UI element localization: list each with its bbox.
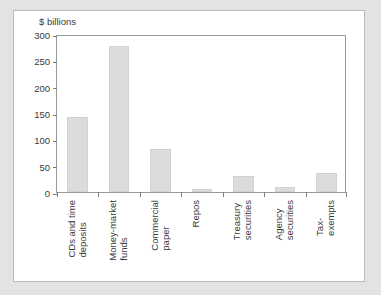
y-tick-mark [53, 141, 57, 142]
x-tick-mark [57, 192, 58, 197]
y-tick-mark [53, 115, 57, 116]
x-axis-label: CDs and time deposits [66, 200, 88, 258]
y-tick-label: 250 [34, 56, 50, 67]
x-tick-mark [181, 192, 182, 197]
y-tick-mark [53, 167, 57, 168]
plot-area: 050100150200250300 [56, 35, 346, 193]
y-tick-mark [53, 88, 57, 89]
y-tick-label: 100 [34, 135, 50, 146]
x-tick-mark [306, 192, 307, 197]
y-tick-label: 300 [34, 30, 50, 41]
bar [109, 46, 130, 192]
x-tick-mark [264, 192, 265, 197]
x-axis-label: Repos [190, 200, 201, 227]
x-axis-label: Money-market funds [107, 200, 129, 261]
y-tick-label: 200 [34, 83, 50, 94]
bar [233, 176, 254, 192]
y-axis-unit-label: $ billions [39, 16, 76, 27]
y-tick-mark [53, 62, 57, 63]
y-tick-mark [53, 36, 57, 37]
x-axis-label: Tax- exempts [314, 200, 336, 236]
x-tick-mark [98, 192, 99, 197]
bar [67, 117, 88, 192]
bar [150, 149, 171, 192]
x-tick-mark [140, 192, 141, 197]
y-tick-label: 150 [34, 109, 50, 120]
x-axis-label: Agency securities [273, 200, 295, 240]
bar [192, 189, 213, 192]
x-tick-mark [346, 192, 347, 197]
x-axis-label: Treasury securities [231, 200, 253, 240]
x-axis-label: Commercial paper [149, 200, 171, 251]
bar [275, 187, 296, 192]
x-tick-mark [223, 192, 224, 197]
chart-panel: $ billions 050100150200250300 CDs and ti… [13, 10, 365, 282]
y-tick-label: 0 [45, 188, 50, 199]
y-tick-label: 50 [39, 162, 50, 173]
bar [316, 173, 337, 192]
